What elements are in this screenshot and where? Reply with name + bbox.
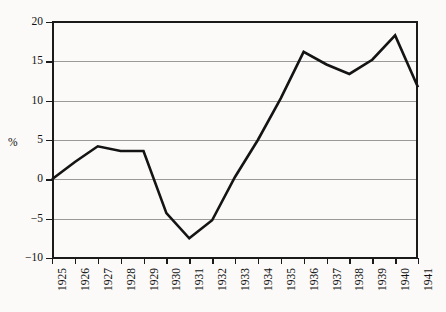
y-tick-label: −5 [31, 213, 43, 225]
x-tick-mark [166, 258, 167, 264]
x-tick-mark [212, 258, 213, 264]
x-tick-label: 1936 [309, 268, 321, 291]
y-tick-label: 5 [37, 134, 43, 146]
x-tick-label: 1940 [400, 268, 412, 291]
x-tick-label: 1932 [217, 268, 229, 291]
gridline [52, 140, 418, 141]
y-tick-label: 10 [32, 95, 44, 107]
y-tick-label: 0 [37, 173, 43, 185]
y-axis-line [52, 22, 54, 258]
gridline [52, 179, 418, 180]
x-tick-mark [327, 258, 328, 264]
x-tick-label: 1938 [354, 268, 366, 291]
x-tick-mark [235, 258, 236, 264]
x-tick-mark [418, 258, 419, 264]
y-axis-tick-labels: −10−505101520 [0, 0, 43, 312]
x-tick-mark [395, 258, 396, 264]
gridline [52, 101, 418, 102]
x-tick-label: 1927 [103, 268, 115, 291]
x-tick-mark [372, 258, 373, 264]
x-tick-mark [52, 258, 53, 264]
plot-right-border [416, 22, 418, 258]
x-tick-label: 1926 [80, 268, 92, 291]
y-tick-label: 15 [32, 55, 44, 67]
x-tick-label: 1930 [171, 268, 183, 291]
y-tick-mark [46, 179, 52, 180]
x-tick-label: 1931 [194, 268, 206, 291]
plot-top-border [52, 21, 418, 23]
gridline [52, 219, 418, 220]
x-tick-label: 1937 [332, 268, 344, 291]
x-tick-mark [144, 258, 145, 264]
x-tick-label: 1929 [149, 268, 161, 291]
gridline [52, 61, 418, 62]
x-tick-mark [189, 258, 190, 264]
y-tick-label: −10 [25, 252, 43, 264]
y-tick-label: 20 [32, 16, 44, 28]
x-tick-mark [304, 258, 305, 264]
line-chart: % −10−505101520 192519261927192819291930… [0, 0, 446, 312]
x-tick-mark [258, 258, 259, 264]
x-tick-mark [98, 258, 99, 264]
y-tick-mark [46, 258, 52, 259]
x-tick-label: 1935 [286, 268, 298, 291]
y-tick-mark [46, 61, 52, 62]
x-tick-label: 1933 [240, 268, 252, 291]
x-tick-mark [75, 258, 76, 264]
y-tick-mark [46, 219, 52, 220]
plot-area [52, 22, 418, 258]
x-tick-label: 1934 [263, 268, 275, 291]
y-tick-mark [46, 101, 52, 102]
x-tick-mark [349, 258, 350, 264]
x-tick-mark [281, 258, 282, 264]
y-tick-mark [46, 140, 52, 141]
x-tick-label: 1928 [126, 268, 138, 291]
x-tick-label: 1939 [377, 268, 389, 291]
y-tick-mark [46, 22, 52, 23]
x-tick-mark [121, 258, 122, 264]
x-tick-label: 1941 [423, 268, 435, 291]
x-tick-label: 1925 [57, 268, 69, 291]
